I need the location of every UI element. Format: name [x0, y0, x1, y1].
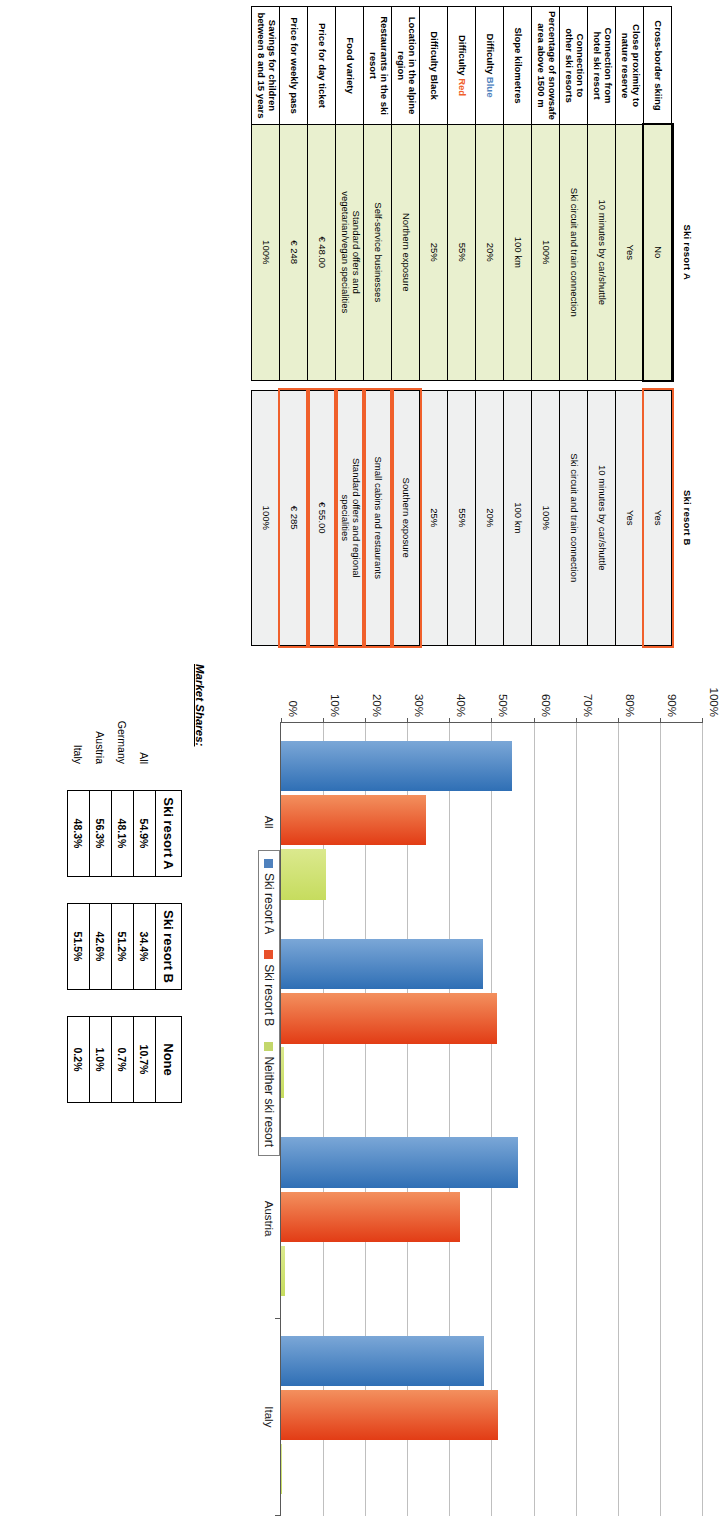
- market-shares-tables: AllGermanyAustriaItalySki resort A54.9%4…: [67, 712, 182, 1103]
- cell-resort-a: € 48.00: [308, 125, 336, 381]
- cell-resort-b: Standard offers and regionalspecialities: [336, 390, 364, 646]
- market-shares-row-label: Germany: [111, 712, 133, 764]
- table-row: 56.3%: [90, 791, 112, 877]
- table-row: Connection toother ski resortsSki circui…: [560, 7, 588, 646]
- market-shares-row-label: Italy: [67, 712, 89, 764]
- table-row: 51.2%: [112, 904, 134, 990]
- bar-group: Austria: [281, 1120, 702, 1318]
- table-row: Savings for childrenbetween 8 and 15 yea…: [252, 7, 280, 646]
- table-row: Connection fromhotel ski resort10 minute…: [588, 7, 616, 646]
- bar-ski-resort-a: [281, 939, 484, 989]
- market-shares-value: 0.2%: [68, 1017, 90, 1103]
- bar-neither-ski-resort: [281, 849, 326, 899]
- cell-resort-a: 55%: [448, 125, 476, 381]
- cell-resort-b: Southern exposure: [392, 390, 420, 646]
- cell-resort-b: 100%: [252, 390, 280, 646]
- y-axis-tick-label: 50%: [498, 694, 510, 717]
- row-label: Connection toother ski resorts: [560, 7, 588, 125]
- cell-resort-b: € 55.00: [308, 390, 336, 646]
- table-row: Cross-border skiingNoYes: [644, 7, 672, 646]
- column-header-resort-a: Ski resort A: [672, 125, 700, 381]
- table-row: 0.7%: [112, 1017, 134, 1103]
- table-row: Price for day ticket€ 48.00€ 55.00: [308, 7, 336, 646]
- row-label: Cross-border skiing: [644, 7, 672, 125]
- cell-resort-a: 20%: [476, 125, 504, 381]
- bar-ski-resort-b: [281, 1390, 498, 1440]
- legend-swatch-icon: [265, 1042, 274, 1051]
- column-header-resort-b: Ski resort B: [672, 390, 700, 646]
- y-axis-tick-label: 10%: [329, 694, 341, 717]
- row-label: Close proximity tonature reserve: [616, 7, 644, 125]
- y-axis-tick: [702, 718, 703, 723]
- market-shares-header: Ski resort B: [156, 904, 182, 990]
- row-label: Restaurants in the ski resort: [364, 7, 392, 125]
- y-axis-tick-label: 90%: [666, 694, 678, 717]
- cell-resort-b: € 285: [280, 390, 308, 646]
- market-shares-value: 51.2%: [112, 904, 134, 990]
- x-axis-tick: [275, 1515, 281, 1516]
- row-label: Difficulty Black: [420, 7, 448, 125]
- cell-resort-a: 100 km: [504, 125, 532, 381]
- ski-resort-comparison-table: Ski resort ASki resort BCross-border ski…: [10, 6, 700, 646]
- bar-ski-resort-a: [281, 1336, 484, 1386]
- table-row: Close proximity tonature reserveYesYes: [616, 7, 644, 646]
- row-label: Difficulty Red: [448, 7, 476, 125]
- table-row: 48.1%: [112, 791, 134, 877]
- cell-resort-b: 100 km: [504, 390, 532, 646]
- cell-resort-a: 100%: [532, 125, 560, 381]
- cell-resort-b: Small cabins and restaurants: [364, 390, 392, 646]
- cell-resort-b: 100%: [532, 390, 560, 646]
- y-axis-tick-label: 100%: [708, 688, 720, 717]
- market-shares-value: 42.6%: [90, 904, 112, 990]
- row-label: Savings for childrenbetween 8 and 15 yea…: [252, 7, 280, 125]
- row-label: Price for weekly pass: [280, 7, 308, 125]
- table-row: 10.7%: [134, 1017, 156, 1103]
- cell-resort-b: 55%: [448, 390, 476, 646]
- cell-resort-a: Standard offers andvegetarian/vegan spec…: [336, 125, 364, 381]
- legend-item: Neither ski resort: [262, 1042, 276, 1147]
- y-axis-tick-label: 0%: [287, 700, 299, 717]
- cell-resort-a: € 248: [280, 125, 308, 381]
- legend-swatch-icon: [265, 950, 274, 959]
- market-shares-value: 48.1%: [112, 791, 134, 877]
- market-shares-value: 54.9%: [134, 791, 156, 877]
- market-shares-row-label: All: [133, 712, 155, 764]
- market-shares-title: Market Shares:: [194, 664, 206, 746]
- cell-resort-b: Ski circuit and train connection: [560, 390, 588, 646]
- market-shares-value: 34.4%: [134, 904, 156, 990]
- bar-group: All: [281, 723, 702, 921]
- cell-resort-b: Yes: [616, 390, 644, 646]
- cell-resort-a: Yes: [616, 125, 644, 381]
- market-shares-value: 1.0%: [90, 1017, 112, 1103]
- row-label: Difficulty Blue: [476, 7, 504, 125]
- table-row: 51.5%: [68, 904, 90, 990]
- table-row: Food varietyStandard offers andvegetaria…: [336, 7, 364, 646]
- market-shares-row-labels: AllGermanyAustriaItaly: [67, 712, 182, 764]
- legend-label: Neither ski resort: [262, 1056, 276, 1147]
- legend-item: Ski resort B: [262, 950, 276, 1026]
- market-shares-table: Ski resort B34.4%51.2%42.6%51.5%: [67, 903, 182, 990]
- table-row: Slope kilometres100 km100 km: [504, 7, 532, 646]
- legend-swatch-icon: [265, 859, 274, 868]
- row-label: Connection fromhotel ski resort: [588, 7, 616, 125]
- market-shares-value: 0.7%: [112, 1017, 134, 1103]
- table-row: Difficulty Blue20%20%: [476, 7, 504, 646]
- table-row: 0.2%: [68, 1017, 90, 1103]
- bar-group: Germany: [281, 921, 702, 1119]
- table-row: 48.3%: [68, 791, 90, 877]
- cell-resort-a: Northern exposure: [392, 125, 420, 381]
- bar-neither-ski-resort: [281, 1047, 284, 1097]
- bar-neither-ski-resort: [281, 1246, 285, 1296]
- market-shares-value: 48.3%: [68, 791, 90, 877]
- cell-resort-a: 25%: [420, 125, 448, 381]
- table-row: 1.0%: [90, 1017, 112, 1103]
- x-axis-tick-label: All: [263, 816, 275, 829]
- table-row: Restaurants in the ski resortSelf-servic…: [364, 7, 392, 646]
- table-row: Difficulty Black25%25%: [420, 7, 448, 646]
- chart-plot-area: 0%10%20%30%40%50%60%70%80%90%100%AllGerm…: [280, 722, 702, 1516]
- cell-resort-b: Yes: [644, 390, 672, 646]
- table-row: 42.6%: [90, 904, 112, 990]
- row-label: Slope kilometres: [504, 7, 532, 125]
- row-label: Percentage of snowsafearea above 1500 m: [532, 7, 560, 125]
